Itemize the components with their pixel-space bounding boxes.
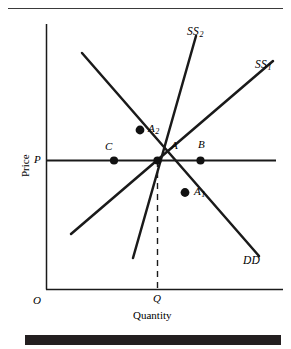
price-level-label-p: P: [34, 154, 41, 165]
curve-label-ss1: SS1: [255, 59, 272, 71]
supply-demand-figure: SS2 SS1 DD C A B A2 A1 P O Q Price Quant…: [0, 0, 291, 349]
bottom-black-bar: [25, 335, 281, 345]
point-marker-a: [153, 156, 161, 164]
y-axis-title-price: Price: [20, 154, 31, 177]
x-axis-title-quantity: Quantity: [133, 310, 172, 321]
origin-label-o: O: [33, 295, 41, 306]
diagram-canvas: [0, 0, 291, 349]
point-label-b: B: [198, 139, 205, 150]
point-label-a2: A2: [148, 123, 159, 134]
curve-label-ss2: SS2: [187, 26, 204, 38]
supply-curve-ss2: [133, 36, 196, 258]
demand-curve-dd: [82, 53, 259, 256]
point-marker-a1: [181, 188, 190, 197]
quantity-level-label-q: Q: [153, 293, 161, 304]
curve-label-dd: DD: [243, 255, 261, 267]
point-marker-a2: [136, 126, 145, 135]
point-label-a1: A1: [194, 186, 205, 197]
point-marker-b: [196, 156, 204, 164]
point-label-c: C: [105, 141, 113, 152]
point-label-a: A: [171, 140, 178, 151]
point-marker-c: [110, 156, 118, 164]
